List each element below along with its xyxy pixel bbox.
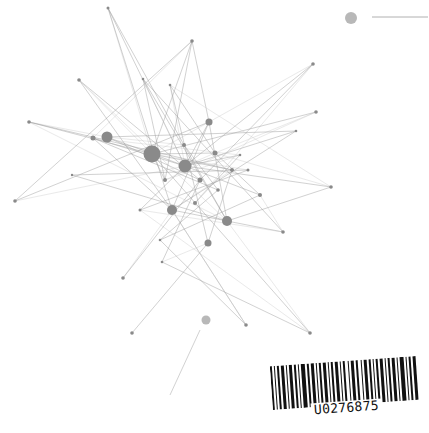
graph-edge — [160, 195, 260, 240]
graph-node — [311, 62, 315, 66]
barcode-bar — [286, 365, 290, 409]
barcode-bar — [294, 364, 299, 408]
barcode-bar — [281, 365, 287, 409]
graph-node — [295, 130, 298, 133]
graph-node — [193, 201, 197, 205]
barcode-bar — [351, 360, 357, 404]
graph-node — [102, 132, 113, 143]
barcode-bar — [376, 359, 381, 403]
graph-node — [169, 84, 172, 87]
graph-node — [121, 276, 125, 280]
barcode-bar — [392, 357, 398, 401]
stray-edge — [170, 330, 200, 395]
graph-edges — [15, 8, 331, 333]
graph-node — [198, 178, 203, 183]
graph-node — [314, 110, 318, 114]
graph-node — [202, 316, 211, 325]
graph-node — [216, 188, 220, 192]
barcode-bar — [340, 361, 344, 405]
graph-node — [27, 120, 31, 124]
barcode-bar — [343, 361, 348, 405]
graph-edge — [162, 243, 208, 262]
graph-edge — [192, 41, 209, 122]
barcode-bar — [397, 357, 401, 401]
barcode-bar — [373, 359, 377, 403]
graph-edge — [209, 64, 313, 122]
graph-nodes — [13, 7, 333, 335]
barcode-bar — [399, 357, 406, 401]
graph-edge — [140, 210, 310, 333]
barcode-bar — [323, 362, 329, 406]
barcode-bar — [380, 358, 386, 402]
barcode-bar — [369, 359, 374, 403]
barcode-bar — [274, 366, 278, 410]
graph-node — [206, 119, 213, 126]
barcode-bar — [364, 359, 370, 403]
barcode-bar — [301, 364, 308, 408]
graph-node — [77, 78, 81, 82]
graph-node — [329, 185, 333, 189]
graph-node — [142, 78, 145, 81]
graph-node — [239, 154, 242, 157]
graph-edge — [172, 210, 246, 325]
barcode-bar — [388, 358, 393, 402]
barcode-bar — [356, 360, 361, 404]
graph-node — [213, 151, 218, 156]
barcode-bar — [328, 362, 332, 406]
graph-node — [144, 146, 161, 163]
graph-node — [130, 331, 134, 335]
graph-edge — [184, 145, 227, 221]
graph-node — [139, 209, 142, 212]
graph-node — [163, 178, 167, 182]
barcode-bar — [405, 357, 409, 401]
barcode-bar — [385, 358, 389, 402]
graph-edge — [162, 262, 310, 333]
barcode-bar — [361, 360, 365, 404]
graph-node — [107, 7, 110, 10]
graph-node — [244, 323, 248, 327]
graph-edge — [123, 180, 200, 278]
graph-node — [182, 143, 186, 147]
graph-edge — [143, 79, 283, 232]
barcode-bar — [408, 356, 413, 400]
graph-edge — [15, 122, 209, 201]
graph-edge — [29, 122, 107, 137]
barcode-bar — [298, 364, 302, 408]
graph-edge — [108, 8, 184, 145]
graph-edge — [160, 240, 246, 325]
graph-edge — [227, 221, 310, 333]
graph-node — [71, 174, 73, 176]
graph-node — [308, 331, 312, 335]
barcode-bar — [319, 363, 324, 407]
graph-node — [161, 261, 164, 264]
legend-marker-icon — [345, 12, 357, 24]
graph-node — [190, 39, 194, 43]
graph-node — [91, 136, 96, 141]
barcode-bar — [316, 363, 320, 407]
barcode-bar — [311, 363, 317, 407]
graph-node — [205, 240, 212, 247]
barcode-bar — [412, 356, 418, 400]
barcode-bar — [289, 365, 295, 409]
graph-edge — [215, 112, 316, 153]
graph-edge — [227, 187, 331, 221]
graph-node — [159, 239, 162, 242]
legend — [345, 12, 428, 24]
graph-node — [247, 169, 250, 172]
barcode-bar — [348, 361, 352, 405]
barcode-bar — [277, 366, 282, 410]
barcode: U0276875 — [270, 356, 424, 426]
graph-edge — [185, 166, 331, 187]
graph-node — [179, 160, 192, 173]
graph-node — [230, 168, 234, 172]
graph-node — [13, 199, 17, 203]
graph-edge — [260, 195, 283, 232]
graph-node — [258, 193, 262, 197]
barcode-bar — [335, 361, 341, 405]
barcode-bar — [307, 363, 312, 407]
graph-edge — [123, 210, 172, 278]
graph-edge — [132, 243, 208, 333]
graph-node — [222, 216, 232, 226]
barcode-bar — [331, 362, 336, 406]
graph-node — [167, 205, 177, 215]
